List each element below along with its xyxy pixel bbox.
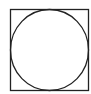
inscribed-circle-diagram <box>0 0 91 94</box>
inscribed-circle <box>11 10 89 91</box>
